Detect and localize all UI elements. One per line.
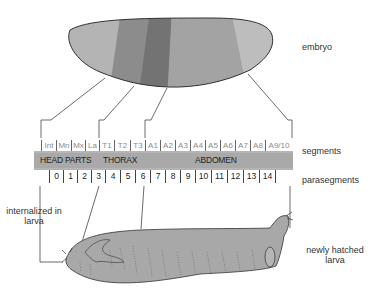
parasegment-label: 7 xyxy=(150,170,165,183)
region-abdomen-label: ABDOMEN xyxy=(195,155,237,166)
segment-label: A5 xyxy=(205,140,220,151)
parasegment-label: 12 xyxy=(227,170,243,183)
embryo-label: embryo xyxy=(302,42,332,52)
parasegment-label: 0 xyxy=(49,170,63,183)
segment-label: A4 xyxy=(190,140,205,151)
parasegment-label: 9 xyxy=(180,170,195,183)
segment-label: T2 xyxy=(114,140,130,151)
segment-label: A3 xyxy=(175,140,190,151)
parasegments-label: parasegments xyxy=(302,175,359,185)
region-head-label: HEAD PARTS xyxy=(40,155,92,166)
larva-label: newly hatched larva xyxy=(300,245,370,265)
parasegment-end xyxy=(275,170,277,183)
segment-label: La xyxy=(85,140,99,151)
parasegment-label: 2 xyxy=(77,170,91,183)
segment-label: Mn xyxy=(56,140,71,151)
larva-shape xyxy=(62,212,293,283)
internalized-label: internalized in larva xyxy=(4,206,64,226)
parasegment-label: 14 xyxy=(259,170,275,183)
parasegment-label: 8 xyxy=(165,170,180,183)
parasegment-label: 4 xyxy=(105,170,120,183)
parasegment-label: 1 xyxy=(63,170,77,183)
segment-label: A2 xyxy=(160,140,175,151)
segment-label: A7 xyxy=(235,140,250,151)
segments-label: segments xyxy=(302,146,341,156)
parasegment-label: 3 xyxy=(91,170,105,183)
segment-label: A8 xyxy=(250,140,265,151)
segment-label: A6 xyxy=(220,140,235,151)
segment-label: A9/10 xyxy=(265,140,292,151)
parasegment-label: 5 xyxy=(120,170,135,183)
segment-label: T1 xyxy=(99,140,114,151)
parasegment-label: 11 xyxy=(211,170,227,183)
parasegment-label: 13 xyxy=(243,170,259,183)
parasegment-label: 10 xyxy=(195,170,211,183)
segment-label: T3 xyxy=(130,140,145,151)
segment-label: Int xyxy=(41,140,56,151)
parasegment-label: 6 xyxy=(135,170,150,183)
region-thorax-label: THORAX xyxy=(103,155,137,166)
segment-label: Mx xyxy=(71,140,85,151)
segment-label: A1 xyxy=(145,140,160,151)
